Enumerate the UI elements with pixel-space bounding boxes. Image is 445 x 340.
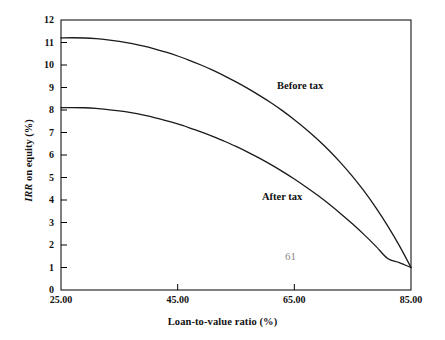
x-tick-label: 65.00 <box>283 295 306 305</box>
x-tick-label: 25.00 <box>50 295 73 305</box>
y-tick-label: 11 <box>22 38 54 48</box>
x-axis-title: Loan-to-value ratio (%) <box>0 316 445 327</box>
x-tick-label: 85.00 <box>400 295 423 305</box>
plot-frame <box>61 20 411 290</box>
y-tick-label: 10 <box>22 60 54 70</box>
series-label-after-tax: After tax <box>262 191 302 202</box>
x-tick-label: 45.00 <box>166 295 189 305</box>
y-tick-label: 12 <box>22 15 54 25</box>
y-axis-title-italic: IRR <box>23 184 34 202</box>
chart-figure: 0123456789101112 25.0045.0065.0085.00 Lo… <box>0 0 445 340</box>
plot-border <box>61 20 411 290</box>
y-tick-label: 2 <box>22 240 54 250</box>
page-number: 61 <box>285 250 296 262</box>
y-tick-label: 1 <box>22 263 54 273</box>
plot-canvas <box>0 0 445 340</box>
y-axis-title: IRR on equity (%) <box>23 91 34 231</box>
y-axis-title-rest: on equity (%) <box>23 119 34 183</box>
series-label-before-tax: Before tax <box>277 80 323 91</box>
